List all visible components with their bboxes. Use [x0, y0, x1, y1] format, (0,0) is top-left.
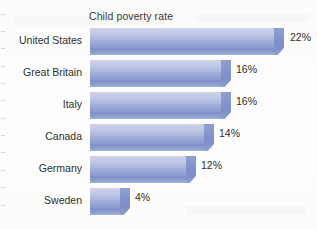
bar-row: Great Britain 16%: [0, 60, 317, 89]
bar-canada: [90, 124, 214, 151]
bar-bottom-edge: [90, 112, 221, 119]
bar-face: [90, 188, 120, 208]
plot-area: United States 22% Great Britain 16% Ital…: [0, 28, 317, 224]
bar-row: Canada 14%: [0, 124, 317, 153]
bar-end-cap: [221, 92, 231, 119]
bar-italy: [90, 92, 231, 119]
bar-great-britain: [90, 60, 231, 87]
bar-end-cap: [186, 156, 196, 183]
bar-bottom-edge: [90, 80, 221, 87]
value-label: 14%: [219, 127, 240, 139]
chart-title: Child poverty rate: [89, 10, 173, 22]
bar-face: [90, 156, 186, 176]
value-label: 16%: [236, 95, 257, 107]
category-label: United States: [0, 34, 82, 46]
child-poverty-bar-chart: Child poverty rate United States 22% Gre…: [0, 0, 317, 229]
bar-bottom-edge: [90, 48, 274, 55]
value-label: 4%: [135, 191, 150, 203]
category-label: Sweden: [0, 194, 82, 206]
bar-face: [90, 124, 204, 144]
value-label: 22%: [290, 31, 311, 43]
category-label: Germany: [0, 162, 82, 174]
bar-bottom-edge: [90, 176, 186, 183]
scan-artifact: [196, 14, 308, 22]
value-label: 16%: [236, 63, 257, 75]
bar-face: [90, 60, 221, 80]
bar-row: Sweden 4%: [0, 188, 317, 217]
bar-bottom-edge: [90, 208, 120, 215]
bar-face: [90, 28, 274, 48]
bar-end-cap: [221, 60, 231, 87]
value-label: 12%: [201, 159, 222, 171]
bar-row: Italy 16%: [0, 92, 317, 121]
bar-sweden: [90, 188, 130, 215]
bar-bottom-edge: [90, 144, 204, 151]
bar-row: Germany 12%: [0, 156, 317, 185]
bar-row: United States 22%: [0, 28, 317, 57]
bar-end-cap: [120, 188, 130, 215]
bar-germany: [90, 156, 196, 183]
bar-end-cap: [204, 124, 214, 151]
bar-united-states: [90, 28, 284, 55]
bar-face: [90, 92, 221, 112]
bar-end-cap: [274, 28, 284, 55]
category-label: Canada: [0, 130, 82, 142]
category-label: Italy: [0, 98, 82, 110]
category-label: Great Britain: [0, 66, 82, 78]
